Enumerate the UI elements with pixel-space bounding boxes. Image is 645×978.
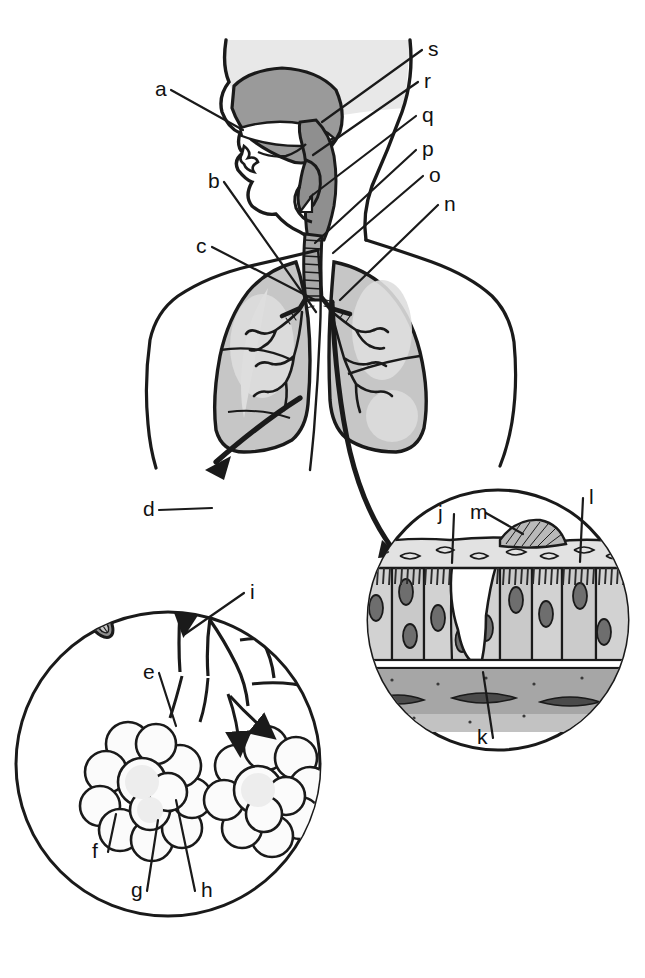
label-a: a — [155, 77, 167, 100]
label-i: i — [250, 580, 255, 603]
label-r: r — [424, 69, 431, 92]
label-h: h — [201, 878, 213, 901]
label-j: j — [437, 501, 443, 524]
label-d: d — [143, 497, 155, 520]
basement-membrane — [356, 660, 645, 668]
label-o: o — [429, 163, 441, 186]
label-q: q — [422, 103, 434, 126]
label-m: m — [470, 500, 488, 523]
label-e: e — [143, 660, 155, 683]
respiratory-system-diagram: abcdefghijklmnopqrs — [0, 0, 645, 978]
label-b: b — [208, 169, 220, 192]
label-f: f — [92, 839, 98, 862]
label-p: p — [422, 137, 434, 160]
alveolar-right-inner-shade — [241, 773, 275, 807]
label-g: g — [131, 878, 143, 901]
label-l: l — [589, 485, 594, 508]
mucus-layer — [356, 537, 640, 568]
label-s: s — [428, 37, 439, 60]
columnar-cells — [359, 566, 630, 660]
right-lung-highlight-lower — [366, 390, 418, 442]
label-k: k — [477, 725, 488, 748]
label-c: c — [196, 234, 207, 257]
diagram-canvas: abcdefghijklmnopqrs — [0, 0, 645, 978]
label-n: n — [444, 192, 456, 215]
